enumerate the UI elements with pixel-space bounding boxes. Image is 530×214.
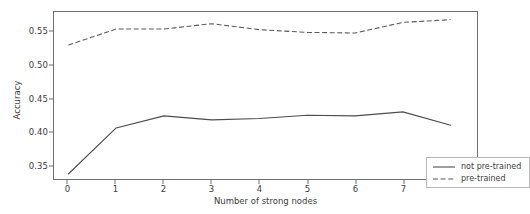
x-tick-mark [67, 180, 68, 184]
x-axis-title: Number of strong nodes [53, 196, 478, 206]
x-tick-label: 4 [257, 184, 262, 194]
y-tick-label: 0.45 [29, 94, 48, 104]
x-tick-label: 7 [401, 184, 406, 194]
x-tick-mark [211, 180, 212, 184]
y-axis-tick-labels: 0.350.400.450.500.55 [0, 0, 48, 214]
y-tick-mark [49, 64, 53, 65]
x-tick-mark [403, 180, 404, 184]
legend-label-not-pre-trained: not pre-trained [461, 162, 521, 172]
y-tick-label: 0.40 [29, 127, 48, 137]
y-tick-mark [49, 132, 53, 133]
x-tick-label: 0 [65, 184, 70, 194]
x-tick-mark [307, 180, 308, 184]
y-tick-mark [49, 30, 53, 31]
line-pre-trained [68, 20, 450, 45]
y-tick-label: 0.55 [29, 26, 48, 36]
x-tick-mark [115, 180, 116, 184]
data-lines [54, 12, 477, 179]
legend-label-pre-trained: pre-trained [461, 174, 506, 184]
legend-entry-not-pre-trained: not pre-trained [432, 161, 524, 173]
x-tick-label: 5 [305, 184, 310, 194]
line-not-pre-trained [68, 112, 450, 174]
x-tick-label: 2 [161, 184, 166, 194]
y-tick-mark [49, 166, 53, 167]
x-tick-label: 3 [209, 184, 214, 194]
x-tick-mark [355, 180, 356, 184]
legend-swatch-dashed [432, 174, 456, 184]
plot-area: not pre-trained pre-trained [53, 11, 478, 180]
x-tick-label: 6 [353, 184, 358, 194]
y-tick-label: 0.50 [29, 60, 48, 70]
legend-entry-pre-trained: pre-trained [432, 173, 524, 185]
chart-legend: not pre-trained pre-trained [426, 157, 530, 188]
x-tick-mark [259, 180, 260, 184]
y-tick-label: 0.35 [29, 161, 48, 171]
x-tick-mark [163, 180, 164, 184]
y-tick-mark [49, 98, 53, 99]
legend-swatch-solid [432, 162, 456, 172]
y-axis-title: Accuracy [12, 60, 22, 140]
x-tick-label: 1 [113, 184, 118, 194]
